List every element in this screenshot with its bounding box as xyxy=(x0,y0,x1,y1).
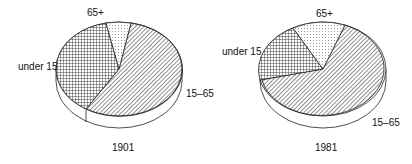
label-under-15: under 15 xyxy=(18,61,58,72)
label-15-65: 15–65 xyxy=(186,88,214,99)
label-65-plus: 65+ xyxy=(87,7,104,18)
label-year: 1981 xyxy=(315,142,338,153)
label-15-65: 15–65 xyxy=(372,117,400,128)
pie-1981: 65+ under 15 15–65 1981 xyxy=(222,8,400,153)
pie-charts: 65+ under 15 15–65 1901 65+ under 15 15–… xyxy=(0,0,412,164)
label-under-15: under 15 xyxy=(222,46,262,57)
pie-1901: 65+ under 15 15–65 1901 xyxy=(18,7,214,153)
label-65-plus: 65+ xyxy=(316,8,333,19)
label-year: 1901 xyxy=(112,142,135,153)
